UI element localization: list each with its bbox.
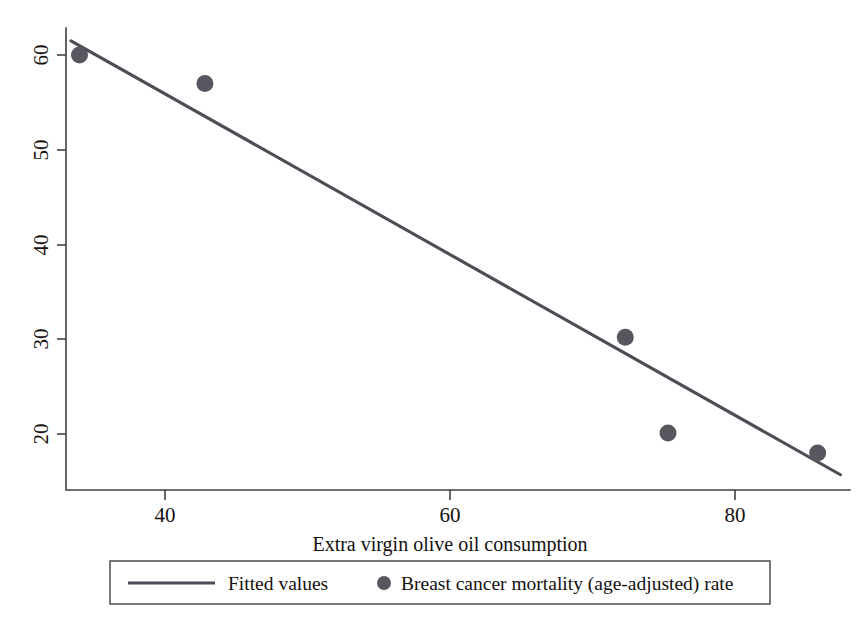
x-axis-tick-labels: 40 60 80 bbox=[155, 503, 746, 527]
data-point bbox=[617, 329, 634, 346]
y-tick-label-20: 20 bbox=[29, 424, 53, 445]
legend-label-breast-cancer-mortality: Breast cancer mortality (age-adjusted) r… bbox=[401, 573, 733, 595]
y-tick-label-60: 60 bbox=[29, 45, 53, 66]
y-tick-label-40: 40 bbox=[29, 235, 53, 256]
legend: Fitted values Breast cancer mortality (a… bbox=[110, 561, 770, 604]
legend-entry-fitted-values[interactable]: Fitted values bbox=[128, 573, 328, 594]
data-point bbox=[660, 425, 677, 442]
legend-label-fitted-values: Fitted values bbox=[228, 573, 328, 594]
chart-canvas: 60 50 40 30 20 40 60 80 Extra virgin oli… bbox=[0, 0, 859, 636]
y-tick-label-30: 30 bbox=[29, 329, 53, 350]
x-tick-label-60: 60 bbox=[440, 503, 461, 527]
x-tick-label-80: 80 bbox=[725, 503, 746, 527]
x-tick-label-40: 40 bbox=[155, 503, 176, 527]
y-axis-tick-labels: 60 50 40 30 20 bbox=[29, 45, 53, 445]
data-point bbox=[71, 47, 88, 64]
data-point bbox=[196, 75, 213, 92]
fitted-values-line bbox=[71, 41, 841, 475]
legend-entry-breast-cancer-mortality[interactable]: Breast cancer mortality (age-adjusted) r… bbox=[377, 573, 733, 595]
scatter-chart: 60 50 40 30 20 40 60 80 Extra virgin oli… bbox=[0, 0, 859, 636]
x-tick-marks bbox=[165, 490, 735, 500]
y-tick-label-50: 50 bbox=[29, 140, 53, 161]
y-tick-marks bbox=[57, 55, 66, 434]
x-axis-title: Extra virgin olive oil consumption bbox=[312, 533, 587, 556]
data-point bbox=[809, 444, 826, 461]
legend-circle-dot-icon bbox=[377, 576, 391, 590]
